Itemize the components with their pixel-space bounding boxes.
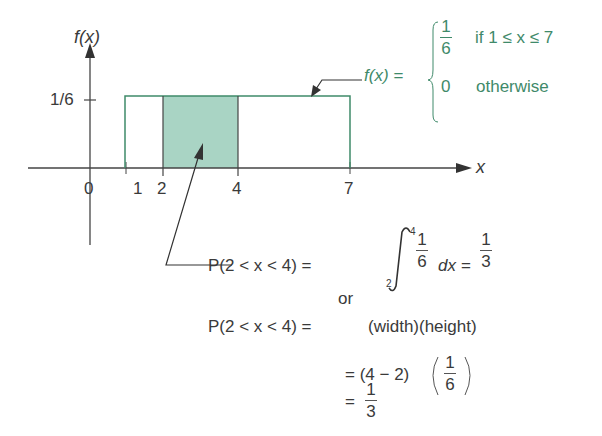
integral-sign	[389, 228, 410, 291]
x-tick-4: 4	[232, 179, 241, 199]
line2-rhs: (width)(height)	[368, 317, 477, 337]
x-tick-1: 1	[133, 179, 142, 199]
x-tick-7: 7	[344, 179, 353, 199]
integral-dx: dx =	[438, 256, 471, 276]
integral-result: 1 3	[480, 230, 492, 271]
definition-case2-condition: otherwise	[476, 77, 549, 97]
definition-fraction: 1 6	[440, 17, 452, 58]
line2-lhs: P(2 < x < 4) =	[208, 317, 311, 337]
line3-fraction: 1 6	[444, 353, 456, 394]
integrand-fraction: 1 6	[416, 230, 428, 271]
pointer-arrow-shaded	[166, 158, 232, 265]
line1-lhs: P(2 < x < 4) =	[208, 256, 311, 276]
x-tick-2: 2	[157, 179, 166, 199]
piecewise-brace	[428, 22, 438, 122]
pointer-arrow-function	[314, 80, 362, 92]
integral-upper: 4	[410, 226, 416, 237]
x-axis-arrow-icon	[456, 163, 472, 173]
y-axis-label: f(x)	[74, 27, 100, 48]
integral-lower: 2	[386, 278, 392, 289]
line4-equals: =	[345, 392, 355, 412]
definition-lhs: f(x) =	[364, 66, 403, 86]
line3-expression: = (4 − 2)	[345, 365, 409, 385]
x-axis-label: x	[476, 157, 485, 178]
definition-case1-condition: if 1 ≤ x ≤ 7	[475, 28, 553, 48]
y-tick-label: 1/6	[50, 90, 74, 110]
line4-fraction: 1 3	[365, 380, 377, 421]
or-text: or	[338, 289, 353, 309]
x-tick-0: 0	[84, 179, 93, 199]
uniform-density-graph	[0, 0, 602, 436]
definition-case2-value: 0	[441, 77, 450, 97]
